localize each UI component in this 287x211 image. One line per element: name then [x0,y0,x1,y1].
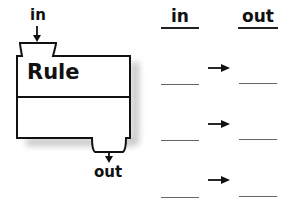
right-arrow-icon [207,63,231,73]
column-header-out-underline [238,27,278,29]
right-arrow-icon [207,119,231,129]
blank-out-2[interactable] [239,139,277,140]
function-machine-shape [0,0,150,211]
blank-in-2[interactable] [161,140,199,141]
right-arrow-icon [207,175,231,185]
blank-in-1[interactable] [161,84,199,85]
column-header-out: out [238,8,278,25]
machine-output-label: out [94,165,122,180]
rule-label: Rule [27,62,80,83]
input-arrow-icon [33,26,41,42]
output-arrow-icon [105,152,113,163]
column-header-in: in [161,8,199,25]
blank-out-3[interactable] [239,196,277,197]
column-header-in-underline [161,27,199,29]
blank-out-1[interactable] [239,83,277,84]
blank-in-3[interactable] [161,197,199,198]
